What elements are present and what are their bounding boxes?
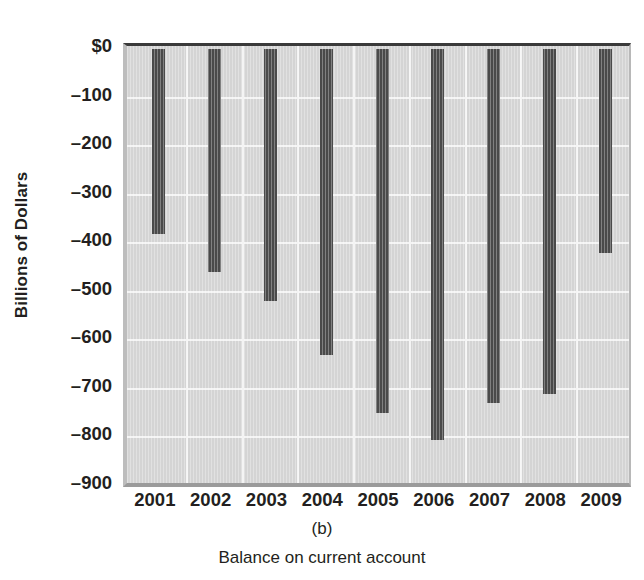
bar [264, 49, 277, 301]
bar [320, 49, 333, 355]
y-tick-label: –700 [71, 377, 112, 396]
y-axis-title-text: Billions of Dollars [12, 172, 32, 318]
x-tick-label: 2002 [190, 491, 231, 510]
x-axis-tick-labels: 200120022003200420052006200720082009 [123, 491, 631, 519]
x-tick-label: 2005 [357, 491, 398, 510]
bar [152, 49, 165, 234]
bar [431, 49, 444, 440]
bar [599, 49, 612, 253]
x-tick-label: 2001 [134, 491, 175, 510]
y-tick-label: $0 [91, 37, 112, 56]
x-tick-label: 2003 [246, 491, 287, 510]
bar-chart-figure: Billions of Dollars $0–100–200–300–400–5… [0, 0, 644, 580]
bar [208, 49, 221, 272]
gridline-vertical [242, 46, 244, 483]
y-tick-label: –800 [71, 425, 112, 444]
y-tick-label: –500 [71, 280, 112, 299]
y-tick-label: –400 [71, 231, 112, 250]
bar [487, 49, 500, 403]
figure-caption: Balance on current account [0, 548, 644, 568]
gridline-vertical [409, 46, 411, 483]
y-axis-title: Billions of Dollars [0, 0, 44, 490]
y-tick-label: –200 [71, 134, 112, 153]
y-axis-tick-labels: $0–100–200–300–400–500–600–700–800–900 [44, 0, 118, 580]
bar [376, 49, 389, 413]
x-tick-label: 2006 [413, 491, 454, 510]
y-tick-label: –300 [71, 182, 112, 201]
gridline-vertical [465, 46, 467, 483]
gridline-vertical [353, 46, 355, 483]
gridline-vertical [576, 46, 578, 483]
gridline-vertical [186, 46, 188, 483]
x-tick-label: 2004 [302, 491, 343, 510]
x-tick-label: 2009 [581, 491, 622, 510]
plot-area [123, 43, 631, 487]
y-tick-label: –100 [71, 85, 112, 104]
x-tick-label: 2007 [469, 491, 510, 510]
x-tick-label: 2008 [525, 491, 566, 510]
plot-inner [127, 46, 629, 483]
gridline-horizontal [127, 436, 629, 438]
y-tick-label: –900 [71, 474, 112, 493]
y-tick-label: –600 [71, 328, 112, 347]
gridline-vertical [520, 46, 522, 483]
panel-label: (b) [0, 519, 644, 539]
gridline-vertical [297, 46, 299, 483]
bar [543, 49, 556, 394]
